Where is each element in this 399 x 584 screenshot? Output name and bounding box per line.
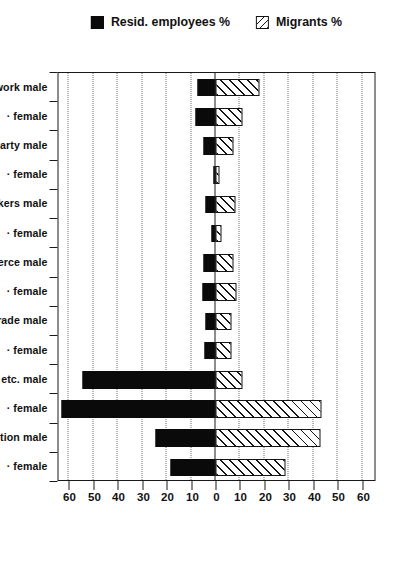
y-axis-tick xyxy=(68,481,69,490)
legend-swatch-migrants-icon xyxy=(256,16,269,29)
bar-migrants xyxy=(215,137,233,155)
bar-migrants xyxy=(215,79,259,97)
y-axis-tick xyxy=(337,481,338,490)
y-axis-tick xyxy=(166,481,167,490)
y-axis-tick-label: 60 xyxy=(356,491,369,503)
y-axis-tick-label: 50 xyxy=(87,491,100,503)
bar-residents xyxy=(195,108,215,126)
x-axis-category-label: · female xyxy=(6,402,47,414)
legend-swatch-residents-icon xyxy=(90,16,103,29)
bar-migrants xyxy=(215,225,221,243)
bar-group xyxy=(58,196,374,214)
bar-group xyxy=(58,108,374,126)
bar-group xyxy=(58,137,374,155)
x-axis-tick xyxy=(49,277,57,278)
y-axis-tick xyxy=(191,481,192,490)
y-axis-tick-label: 30 xyxy=(136,491,149,503)
y-axis-tick xyxy=(362,481,363,490)
x-axis-category-label: Service trade male xyxy=(0,314,47,326)
x-axis-tick xyxy=(49,160,57,161)
x-axis-category-label: · female xyxy=(6,285,47,297)
y-axis-tick-label: 40 xyxy=(112,491,125,503)
x-axis-category-label: · female xyxy=(6,344,47,356)
x-axis-category-label: Technical work male xyxy=(0,81,47,93)
bar-migrants xyxy=(215,371,242,389)
bar-migrants xyxy=(215,400,321,418)
y-axis-tick-label: 0 xyxy=(213,491,220,503)
legend-inner: Resid. employees % Migrants % xyxy=(90,15,341,29)
x-axis-tick xyxy=(49,452,57,453)
bar-group xyxy=(58,342,374,360)
x-axis-tick xyxy=(49,481,57,482)
x-axis-tick xyxy=(49,423,57,424)
bar-migrants xyxy=(215,108,242,126)
bar-residents xyxy=(61,400,215,418)
bar-migrants xyxy=(215,313,231,331)
y-axis-tick-label: 10 xyxy=(234,491,247,503)
bar-migrants xyxy=(215,166,219,184)
x-axis-category-label: Production male xyxy=(0,431,47,443)
figure-canvas: Resid. employees % Migrants % 6050403020… xyxy=(0,0,399,584)
y-axis-tick-label: 20 xyxy=(160,491,173,503)
y-axis-tick-label: 30 xyxy=(283,491,296,503)
bar-group xyxy=(58,283,374,301)
y-axis-tick xyxy=(142,481,143,490)
y-axis-tick xyxy=(117,481,118,490)
x-axis-tick xyxy=(49,101,57,102)
bar-group xyxy=(58,254,374,272)
x-axis-tick xyxy=(49,393,57,394)
bar-migrants xyxy=(215,196,235,214)
x-axis-category-label: Commerce male xyxy=(0,256,47,268)
y-axis: 6050403020100102030405060 xyxy=(57,481,375,571)
x-axis-category-label: Farming, etc. male xyxy=(0,373,47,385)
bar-group xyxy=(58,459,374,477)
x-axis-labels: Technical work male· femaleGovern., part… xyxy=(0,72,47,481)
x-axis-tick xyxy=(49,218,57,219)
y-axis-tick xyxy=(239,481,240,490)
bar-migrants xyxy=(215,459,285,477)
y-axis-tick xyxy=(215,481,216,490)
bar-residents xyxy=(202,283,215,301)
bar-residents xyxy=(203,137,215,155)
y-axis-tick-label: 40 xyxy=(307,491,320,503)
legend-label-residents: Resid. employees % xyxy=(110,15,229,29)
y-axis-tick xyxy=(93,481,94,490)
y-axis-tick xyxy=(264,481,265,490)
plot-area xyxy=(57,72,375,481)
chart-figure: Resid. employees % Migrants % 6050403020… xyxy=(0,0,399,584)
x-axis-category-label: · female xyxy=(6,110,47,122)
bar-residents xyxy=(197,79,215,97)
bar-migrants xyxy=(215,342,231,360)
bar-residents xyxy=(155,429,215,447)
bar-group xyxy=(58,166,374,184)
bar-group xyxy=(58,429,374,447)
x-axis-tick xyxy=(49,306,57,307)
bar-residents xyxy=(203,254,215,272)
y-axis-tick-label: 60 xyxy=(63,491,76,503)
bar-migrants xyxy=(215,254,233,272)
bar-group xyxy=(58,400,374,418)
y-axis-tick-label: 10 xyxy=(185,491,198,503)
bar-residents xyxy=(82,371,215,389)
y-axis-tick-label: 20 xyxy=(258,491,271,503)
x-axis-tick xyxy=(49,247,57,248)
bar-group xyxy=(58,313,374,331)
bar-residents xyxy=(170,459,215,477)
x-axis-tick xyxy=(49,364,57,365)
y-axis-tick xyxy=(288,481,289,490)
bar-migrants xyxy=(215,429,320,447)
x-axis-tick xyxy=(49,335,57,336)
y-axis-tick xyxy=(313,481,314,490)
x-axis-category-label: Office workers male xyxy=(0,197,47,209)
bar-residents xyxy=(204,342,215,360)
bar-group xyxy=(58,225,374,243)
x-axis-category-label: Govern., party male xyxy=(0,139,47,151)
legend-label-migrants: Migrants % xyxy=(276,15,342,29)
x-axis-tick xyxy=(49,130,57,131)
bar-group xyxy=(58,79,374,97)
x-axis-category-label: · female xyxy=(6,227,47,239)
x-axis-category-label: · female xyxy=(6,460,47,472)
x-axis-tick xyxy=(49,72,57,73)
y-axis-tick-label: 50 xyxy=(332,491,345,503)
chart-legend: Resid. employees % Migrants % xyxy=(57,0,375,62)
